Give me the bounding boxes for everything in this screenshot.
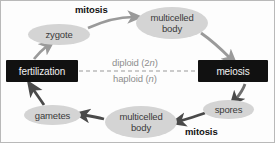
node-zygote: zygote: [28, 24, 90, 45]
node-multicelled-body-top-line1: multicelled: [150, 12, 193, 23]
life-cycle-diagram: zygote multicelled body meiosis spores m…: [0, 0, 275, 143]
ploidy-haploid-suffix: ): [154, 73, 157, 84]
ploidy-label-haploid: haploid (n): [113, 73, 157, 84]
arrow-gametes-to-fertilization: [33, 89, 44, 105]
node-fertilization: fertilization: [6, 60, 78, 82]
ploidy-diploid-text: diploid (2: [112, 57, 150, 68]
edge-label-mitosis-bottom: mitosis: [185, 126, 218, 137]
node-multicelled-body-bottom-line2: body: [131, 122, 151, 133]
arrow-meiosis-to-spores: [236, 84, 245, 99]
edge-label-mitosis-top: mitosis: [75, 4, 108, 15]
ploidy-diploid-suffix: ): [155, 57, 158, 68]
node-multicelled-body-bottom: multicelled body: [105, 106, 177, 138]
arrow-zygote-to-multicelled-body: [88, 17, 133, 28]
node-fertilization-label: fertilization: [19, 66, 66, 77]
node-zygote-label: zygote: [45, 29, 72, 40]
node-multicelled-body-top: multicelled body: [136, 7, 208, 39]
node-multicelled-body-top-line2: body: [162, 23, 182, 34]
ploidy-haploid-text: haploid (: [113, 73, 149, 84]
arrow-multicelled-body-to-meiosis: [201, 33, 230, 58]
node-gametes-label: gametes: [35, 110, 70, 121]
node-meiosis: meiosis: [198, 60, 268, 82]
ploidy-label-diploid: diploid (2n): [112, 57, 158, 68]
node-meiosis-label: meiosis: [216, 66, 249, 77]
node-spores-label: spores: [215, 104, 243, 115]
arrow-fertilization-to-zygote: [34, 46, 47, 59]
arrow-multicelled-body-to-gametes: [84, 115, 104, 119]
node-gametes: gametes: [24, 105, 81, 125]
arrow-spores-to-multicelled-body: [180, 113, 205, 121]
node-spores: spores: [203, 100, 254, 119]
node-multicelled-body-bottom-line1: multicelled: [119, 111, 162, 122]
